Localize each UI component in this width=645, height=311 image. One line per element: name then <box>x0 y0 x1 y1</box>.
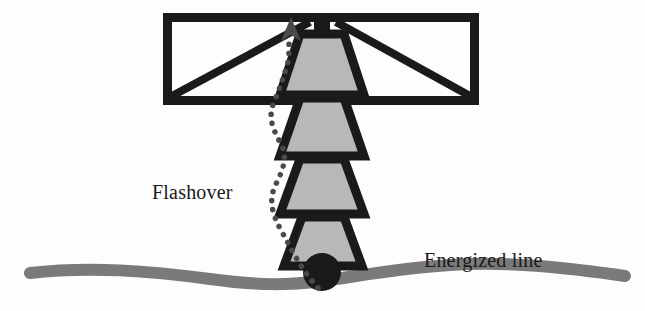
diagram-canvas: Flashover Energized line <box>0 0 645 311</box>
insulator-disc-3 <box>280 159 364 214</box>
insulator-disc-2 <box>280 98 364 156</box>
insulator-disc-stack <box>280 34 364 266</box>
flashover-diagram <box>0 0 645 311</box>
label-flashover: Flashover <box>152 181 233 204</box>
insulator-disc-1 <box>280 34 364 95</box>
conductor-clamp <box>303 253 341 291</box>
label-energized-line: Energized line <box>424 249 543 272</box>
